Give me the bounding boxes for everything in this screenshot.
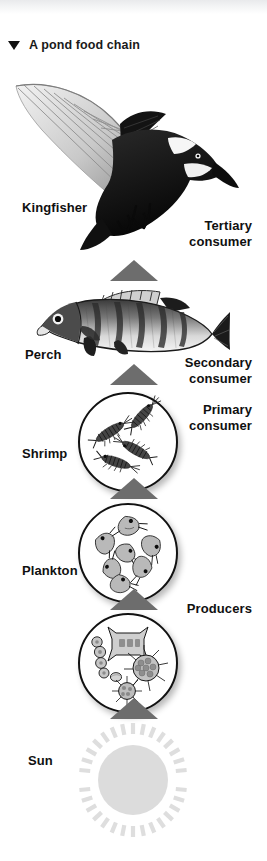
arrow-perch-to-kingfisher — [110, 260, 158, 281]
pond-food-chain-figure: A pond food chain — [0, 0, 267, 861]
zooplankton-1 — [115, 511, 149, 539]
arrow-shrimp-to-perch — [110, 364, 158, 385]
label-plankton: Plankton — [22, 563, 78, 579]
perch-illustration — [36, 286, 231, 356]
arrow-plankton-to-shrimp — [110, 478, 158, 499]
zooplankton-group — [92, 511, 170, 595]
sun-disc — [98, 745, 168, 815]
label-shrimp: Shrimp — [22, 446, 67, 462]
label-kingfisher: Kingfisher — [22, 200, 87, 216]
arrow-algae-to-plankton — [110, 589, 158, 610]
zooplankton-5 — [130, 555, 153, 586]
phytoplankton-illustration — [80, 615, 176, 711]
arrow-sun-to-algae — [110, 698, 158, 719]
sun-illustration — [73, 720, 193, 840]
label-primary-consumer: Primary consumer — [142, 402, 252, 434]
label-sun: Sun — [28, 753, 53, 769]
label-secondary-consumer: Secondary consumer — [142, 355, 252, 387]
zooplankton-illustration — [80, 505, 176, 601]
algae-cell-chain — [92, 637, 109, 678]
shrimp-4 — [92, 451, 141, 479]
label-perch: Perch — [25, 347, 62, 363]
page-top-band — [0, 0, 267, 14]
down-triangle-icon — [8, 41, 20, 50]
label-tertiary-consumer: Tertiary consumer — [142, 218, 252, 250]
kingfisher-beak — [212, 162, 239, 188]
plankton-circle — [78, 503, 178, 603]
figure-caption: A pond food chain — [8, 36, 258, 54]
figure-caption-text: A pond food chain — [29, 38, 140, 52]
